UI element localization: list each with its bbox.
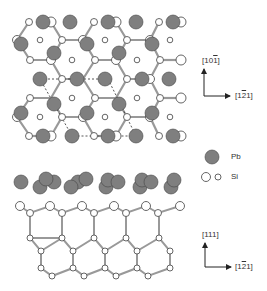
top-view-axes (204, 69, 230, 96)
si-legend-icon-small (215, 174, 221, 180)
axis-label-top-horizontal: [121] (235, 91, 253, 100)
crystal-structure-diagram (0, 0, 267, 291)
pb-legend-icon (205, 150, 219, 164)
legend-label-pb: Pb (231, 152, 241, 161)
legend-label-si: Si (231, 172, 238, 181)
axis-label-side-vertical: [111] (202, 230, 219, 239)
si-legend-icon-large (202, 173, 211, 182)
legend-symbols (202, 150, 222, 182)
side-view (14, 172, 185, 279)
axis-label-top-vertical: [101] (202, 56, 220, 65)
top-view (13, 15, 187, 143)
axis-label-side-horizontal: [121] (235, 262, 253, 271)
side-view-axes (205, 243, 231, 267)
